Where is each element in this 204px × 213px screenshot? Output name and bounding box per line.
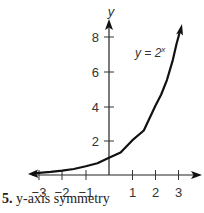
y-tick-label: 2 xyxy=(92,134,99,149)
function-label-exponent: x xyxy=(160,45,166,54)
function-label-base: y = 2 xyxy=(134,46,162,60)
figure-caption: 5. y-axis symmetry xyxy=(2,191,110,207)
y-tick-labels: 2 4 6 8 xyxy=(92,30,99,149)
x-tick-label: 3 xyxy=(175,185,182,200)
graph: −3 −2 −1 1 2 3 2 4 6 8 y y = 2x xyxy=(0,0,204,213)
caption-text: y-axis symmetry xyxy=(16,191,110,206)
x-tick-label: 1 xyxy=(129,185,136,200)
y-axis-label: y xyxy=(107,4,116,19)
y-tick-label: 4 xyxy=(92,100,99,115)
y-tick-label: 6 xyxy=(92,65,99,80)
x-tick-label: 2 xyxy=(152,185,159,200)
caption-number: 5. xyxy=(2,191,13,206)
y-tick-label: 8 xyxy=(92,30,99,45)
function-label: y = 2x xyxy=(134,45,166,60)
